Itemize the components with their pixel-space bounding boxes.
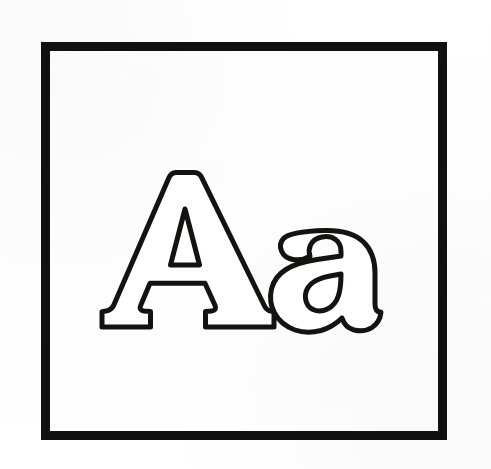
outer-border-rect xyxy=(46,47,443,436)
letter-artwork xyxy=(0,0,491,469)
outer-border-frame xyxy=(46,47,443,436)
coloring-page: Aa Uppercase A Lowercase a xyxy=(0,0,491,469)
uppercase-a-glyph xyxy=(102,173,274,328)
lowercase-a-glyph xyxy=(271,230,382,332)
